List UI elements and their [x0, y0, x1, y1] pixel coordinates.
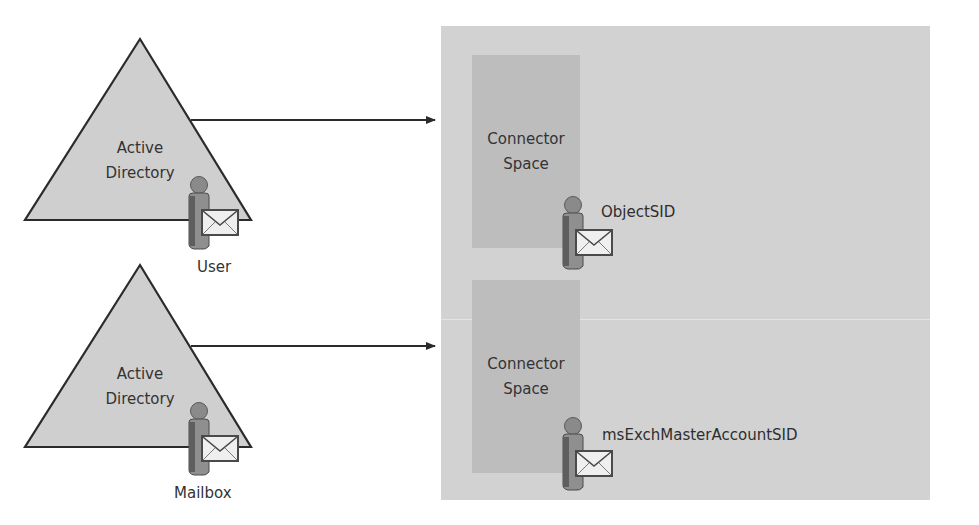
user-mailbox-icon — [184, 400, 244, 476]
attribute-label-objectsid: ObjectSID — [601, 203, 675, 221]
object-label-mailbox: Mailbox — [174, 484, 232, 502]
active-directory-label-2: Active Directory — [80, 362, 200, 412]
user-mailbox-icon — [184, 174, 244, 250]
ad-label-line1: Active — [80, 362, 200, 387]
diagram-shapes — [0, 0, 979, 525]
object-label-user: User — [197, 258, 231, 276]
ad-label-line2: Directory — [80, 387, 200, 412]
ad-label-line1: Active — [80, 136, 200, 161]
active-directory-label-1: Active Directory — [80, 136, 200, 186]
attribute-label-msexchmasteraccountsid: msExchMasterAccountSID — [602, 426, 798, 444]
ad-label-line2: Directory — [80, 161, 200, 186]
